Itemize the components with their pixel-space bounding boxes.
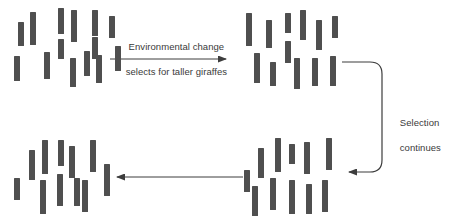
giraffe-bar: [84, 51, 90, 76]
label-environmental-change: Environmental change selects for taller …: [112, 28, 230, 91]
giraffe-bar: [96, 55, 102, 83]
giraffe-bar: [92, 37, 98, 59]
giraffe-bar: [306, 184, 312, 214]
giraffe-bar: [30, 12, 36, 45]
giraffe-bar: [58, 140, 64, 166]
label-environmental-change-line2: selects for taller giraffes: [126, 66, 228, 77]
giraffe-bar: [71, 10, 77, 42]
giraffe-bar: [275, 138, 281, 172]
giraffe-bar: [29, 150, 35, 180]
giraffe-bar: [304, 142, 310, 174]
giraffe-bar: [104, 164, 110, 196]
giraffe-bar: [14, 178, 20, 200]
giraffe-cluster-population-after-selection-2: [244, 138, 354, 218]
label-environmental-change-line1: Environmental change: [129, 41, 225, 52]
giraffe-bar: [326, 138, 332, 170]
giraffe-bar: [74, 178, 80, 206]
giraffe-bar: [254, 53, 260, 83]
giraffe-bar: [70, 58, 76, 87]
giraffe-bar: [330, 56, 336, 86]
giraffe-bar: [14, 56, 20, 81]
giraffe-bar: [44, 52, 50, 79]
label-selection-continues-line1: Selection: [400, 117, 440, 128]
giraffe-bar: [270, 178, 276, 210]
giraffe-bar: [332, 16, 338, 38]
giraffe-bar: [42, 140, 48, 174]
giraffe-bar: [90, 140, 96, 172]
giraffe-bar: [58, 39, 64, 59]
giraffe-bar: [322, 180, 328, 212]
giraffe-bar: [69, 146, 75, 178]
giraffe-bar: [246, 13, 252, 46]
giraffe-bar: [285, 13, 291, 33]
label-selection-continues: Selection continues: [389, 104, 447, 167]
giraffe-bar: [58, 8, 64, 34]
giraffe-bar: [285, 41, 291, 63]
giraffe-bar: [316, 20, 322, 50]
label-selection-continues-line2: continues: [400, 142, 441, 153]
giraffe-bar: [40, 180, 46, 214]
figure-canvas: Environmental change selects for taller …: [0, 0, 449, 224]
giraffe-bar: [312, 58, 318, 86]
giraffe-bar: [300, 10, 306, 40]
giraffe-bar: [258, 148, 264, 178]
giraffe-bar: [244, 170, 250, 192]
giraffe-bar: [294, 58, 300, 89]
giraffe-bar: [252, 186, 258, 216]
giraffe-bar: [270, 62, 276, 86]
giraffe-cluster-population-final: [14, 138, 124, 218]
giraffe-bar: [289, 144, 295, 164]
giraffe-cluster-population-after-selection-1: [244, 8, 354, 92]
giraffe-bar: [92, 10, 98, 36]
giraffe-bar: [266, 20, 272, 48]
giraffe-bar: [82, 180, 88, 212]
giraffe-bar: [289, 180, 295, 214]
giraffe-bar: [18, 22, 24, 46]
giraffe-bar: [57, 174, 63, 206]
